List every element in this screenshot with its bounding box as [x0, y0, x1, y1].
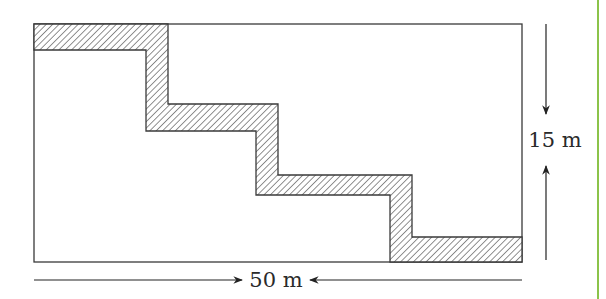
field-diagram: 50 m 15 m [0, 0, 606, 299]
height-label: 15 m [528, 128, 581, 152]
width-label: 50 m [249, 268, 302, 292]
